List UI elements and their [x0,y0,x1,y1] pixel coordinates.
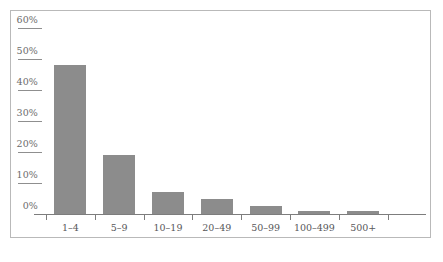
y-axis-tick-rule [18,121,42,122]
x-axis-tick [95,215,96,220]
bar [152,192,184,214]
y-axis-tick-rule [18,59,42,60]
bar [201,199,233,215]
y-axis-tick-text: 40% [0,77,40,87]
y-axis-tick-text: 30% [0,108,40,118]
y-axis-tick-label: 50% [0,46,40,56]
x-axis-line [34,214,426,215]
y-axis-tick-label: 60% [0,15,40,25]
y-axis-tick-label: 40% [0,77,40,87]
y-axis-tick-text: 0% [0,201,40,211]
y-axis-tick-text: 50% [0,46,40,56]
x-axis-tick [290,215,291,220]
y-axis-tick-rule [18,183,42,184]
x-axis-category-label: 500+ [333,222,393,233]
bar [250,206,282,214]
x-axis-tick [144,215,145,220]
y-axis-tick-rule [18,90,42,91]
y-axis-tick-text: 20% [0,139,40,149]
y-axis-tick-text: 10% [0,170,40,180]
y-axis-tick-label: 20% [0,139,40,149]
x-axis-tick [241,215,242,220]
y-axis-tick-label: 30% [0,108,40,118]
y-axis-tick-rule [18,152,42,153]
x-axis-tick [192,215,193,220]
chart-figure: 60%50%40%30%20%10%0% 1–45–910–1920–4950–… [0,0,443,262]
bar-series [46,28,432,214]
x-axis-tick [388,215,389,220]
y-axis-tick-label: 10% [0,170,40,180]
figure-caption [12,249,432,258]
y-axis-tick-text: 60% [0,15,40,25]
x-axis-tick [46,215,47,220]
bar [103,155,135,214]
y-axis-tick-label: 0% [0,201,40,211]
bar [54,65,86,214]
x-axis-tick [339,215,340,220]
y-axis-tick-rule [18,28,42,29]
